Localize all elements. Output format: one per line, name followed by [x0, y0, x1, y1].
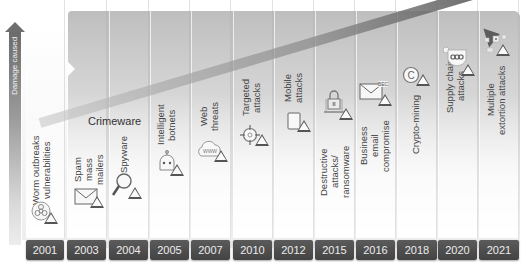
crimeware-group-label: Crimeware — [88, 115, 141, 127]
warning-icon — [44, 212, 58, 224]
year-box-2004: 2004 — [109, 240, 148, 260]
warning-icon — [339, 108, 353, 120]
year-box-2020: 2020 — [438, 240, 477, 260]
warning-icon — [214, 150, 228, 162]
warning-icon — [461, 64, 475, 76]
event-label-2015: Destructive attacks/ ransomware — [318, 140, 354, 204]
arrow-up-icon — [5, 22, 25, 32]
event-label-2005: Intelligent botnets — [155, 100, 181, 150]
warning-icon — [90, 196, 104, 208]
warning-icon — [128, 187, 142, 199]
year-box-2021: 2021 — [479, 240, 519, 260]
event-label-2012: Mobile attacks — [282, 70, 308, 106]
year-box-2005: 2005 — [150, 240, 189, 260]
warning-icon — [297, 120, 311, 132]
warning-icon — [378, 94, 392, 106]
event-label-2021: Multiple extortion attacks — [485, 60, 511, 140]
event-label-2010: Targeted attacks — [240, 78, 266, 118]
year-box-2016: 2016 — [356, 240, 395, 260]
damage-axis-label: Damage caused — [9, 34, 21, 98]
year-box-2018: 2018 — [397, 240, 437, 260]
svg-text:BEC: BEC — [378, 81, 389, 87]
event-label-2001: Worm outbreaks vulnerabilities — [30, 130, 58, 210]
timeline-column-2010 — [233, 0, 273, 238]
threat-evolution-diagram: Damage caused Crimeware Worm outbreaks v… — [0, 0, 528, 271]
event-label-2003: Spam mass mailers — [72, 150, 106, 190]
warning-icon — [496, 44, 510, 56]
warning-icon — [416, 74, 430, 86]
svg-text:C: C — [407, 70, 414, 81]
year-box-2007: 2007 — [191, 240, 230, 260]
event-label-2007: Web threats — [198, 98, 224, 134]
year-box-2010: 2010 — [233, 240, 272, 260]
timeline-column-2020 — [438, 0, 478, 238]
warning-icon — [170, 164, 184, 176]
year-box-2012: 2012 — [274, 240, 313, 260]
warning-icon — [255, 134, 269, 146]
event-label-2016: Business email compromise — [358, 115, 394, 177]
event-label-2018: Crypto-mining — [410, 92, 424, 156]
event-label-2004: Spyware — [118, 136, 132, 174]
year-box-2003: 2003 — [67, 240, 106, 260]
year-box-2001: 2001 — [26, 240, 64, 260]
year-box-2015: 2015 — [315, 240, 354, 260]
